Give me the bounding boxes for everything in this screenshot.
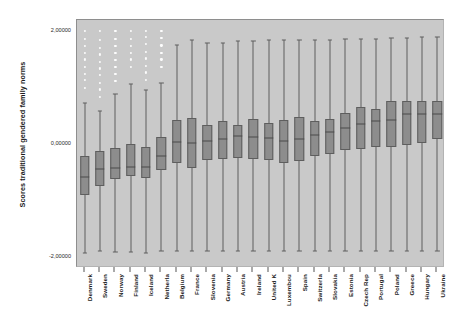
whisker-cap-upper bbox=[328, 39, 332, 40]
x-axis-tick-mark bbox=[129, 267, 130, 272]
whisker-cap-lower bbox=[374, 250, 378, 251]
x-axis-tick-label: Denmark bbox=[86, 274, 93, 301]
x-axis-tick-label: Belgium bbox=[178, 274, 185, 299]
box-iqr bbox=[417, 101, 427, 143]
whisker-cap-upper bbox=[282, 39, 286, 40]
outlier-point bbox=[130, 66, 132, 68]
outlier-point bbox=[99, 30, 101, 32]
median-line bbox=[203, 141, 213, 142]
boxplot-item bbox=[368, 20, 383, 266]
box-iqr bbox=[356, 107, 366, 149]
outlier-point bbox=[114, 45, 116, 47]
x-axis-tick-mark bbox=[206, 267, 207, 272]
median-line bbox=[264, 137, 274, 138]
whisker-cap-lower bbox=[236, 250, 240, 251]
whisker-cap-lower bbox=[129, 251, 133, 252]
whisker-lower bbox=[99, 186, 100, 251]
median-line bbox=[172, 142, 182, 143]
outlier-point bbox=[84, 79, 86, 81]
whisker-cap-lower bbox=[98, 251, 102, 252]
outlier-point bbox=[145, 50, 147, 52]
whisker-cap-upper bbox=[175, 45, 179, 46]
whisker-upper bbox=[191, 40, 192, 118]
whisker-lower bbox=[406, 145, 407, 250]
x-axis-tick-mark bbox=[359, 267, 360, 272]
whisker-upper bbox=[406, 38, 407, 101]
whisker-cap-lower bbox=[144, 252, 148, 253]
whisker-upper bbox=[84, 103, 85, 156]
outlier-point bbox=[160, 44, 162, 46]
x-axis-tick-label: Spain bbox=[301, 274, 308, 291]
boxplot-item bbox=[169, 20, 184, 266]
x-axis-tick-mark bbox=[252, 267, 253, 272]
median-line bbox=[433, 114, 443, 115]
median-line bbox=[126, 167, 136, 168]
boxplot-item bbox=[77, 20, 92, 266]
x-axis-tick-label: Czech Rep bbox=[362, 274, 369, 307]
median-line bbox=[218, 139, 228, 140]
whisker-cap-upper bbox=[405, 38, 409, 39]
outlier-point bbox=[84, 87, 86, 89]
boxplot-item bbox=[123, 20, 138, 266]
whisker-cap-lower bbox=[190, 250, 194, 251]
x-axis-tick-label: Ukraine bbox=[439, 274, 446, 297]
outlier-point bbox=[99, 53, 101, 55]
boxplot-item bbox=[399, 20, 414, 266]
outlier-point bbox=[145, 65, 147, 67]
boxplot-series bbox=[77, 20, 443, 266]
whisker-cap-upper bbox=[297, 39, 301, 40]
boxplot-item bbox=[384, 20, 399, 266]
whisker-upper bbox=[161, 83, 162, 137]
outlier-point bbox=[160, 58, 162, 60]
y-axis-tick-label: 2,00000 bbox=[29, 27, 71, 33]
whisker-cap-upper bbox=[374, 38, 378, 39]
x-axis-tick-mark bbox=[114, 267, 115, 272]
outlier-point bbox=[99, 61, 101, 63]
whisker-cap-upper bbox=[205, 42, 209, 43]
x-axis-tick-label: Greece bbox=[408, 274, 415, 296]
x-axis-tick-label: Sweden bbox=[101, 274, 108, 298]
whisker-upper bbox=[345, 39, 346, 113]
x-axis-tick-mark bbox=[99, 267, 100, 272]
whisker-cap-upper bbox=[267, 39, 271, 40]
outlier-point bbox=[114, 38, 116, 40]
median-line bbox=[279, 140, 289, 141]
box-iqr bbox=[371, 109, 381, 147]
x-axis-tick-label: Finland bbox=[132, 274, 139, 297]
whisker-lower bbox=[222, 159, 223, 250]
median-line bbox=[233, 136, 243, 137]
whisker-upper bbox=[130, 84, 131, 144]
whisker-cap-upper bbox=[313, 39, 317, 40]
outlier-point bbox=[99, 39, 101, 41]
outlier-point bbox=[160, 37, 162, 39]
box-iqr bbox=[203, 125, 213, 159]
x-axis-tick-label: Slovenia bbox=[209, 274, 216, 300]
whisker-cap-upper bbox=[98, 111, 102, 112]
outlier-point bbox=[145, 71, 147, 73]
boxplot-item bbox=[261, 20, 276, 266]
box-iqr bbox=[111, 148, 121, 179]
boxplot-item bbox=[138, 20, 153, 266]
outlier-point bbox=[99, 47, 101, 49]
boxplot-item bbox=[276, 20, 291, 266]
whisker-cap-lower bbox=[297, 250, 301, 251]
box-iqr bbox=[157, 137, 167, 170]
plot-area bbox=[76, 19, 444, 267]
boxplot-item bbox=[184, 20, 199, 266]
whisker-upper bbox=[360, 39, 361, 107]
whisker-lower bbox=[253, 159, 254, 251]
outlier-point bbox=[160, 30, 162, 32]
whisker-cap-upper bbox=[113, 93, 117, 94]
outlier-point bbox=[145, 57, 147, 59]
x-axis-tick-mark bbox=[191, 267, 192, 272]
median-line bbox=[310, 134, 320, 135]
whisker-cap-lower bbox=[113, 251, 117, 252]
whisker-cap-lower bbox=[328, 250, 332, 251]
median-line bbox=[325, 132, 335, 133]
x-axis-tick-label: Slovakia bbox=[331, 274, 338, 300]
outlier-point bbox=[99, 74, 101, 76]
whisker-upper bbox=[421, 37, 422, 101]
outlier-point bbox=[130, 58, 132, 60]
median-line bbox=[295, 138, 305, 139]
x-axis-tick-label: Germany bbox=[224, 274, 231, 302]
